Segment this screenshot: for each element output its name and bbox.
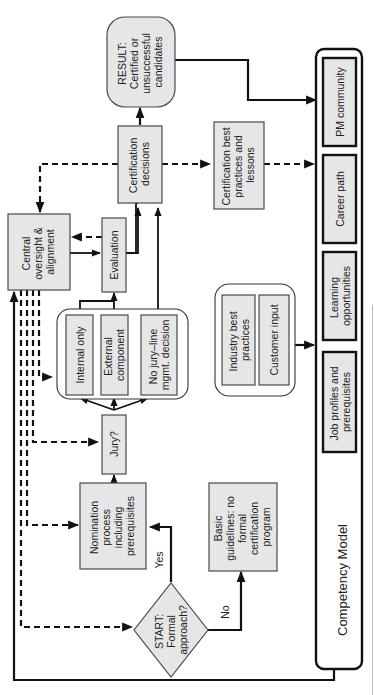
external-component-label: External component bbox=[102, 329, 126, 381]
competency-model-node: PM community Career path Learning opport… bbox=[316, 49, 362, 669]
start-label: START: Formal approach? bbox=[153, 605, 189, 655]
no-edge-label: No bbox=[219, 605, 231, 619]
basic-guidelines-node: Basic guidelines: no formal certificatio… bbox=[209, 483, 277, 571]
yes-edge-label: Yes bbox=[153, 551, 165, 568]
jury-options-group: Internal only External component No jury… bbox=[57, 309, 188, 399]
edge-jury-to-internal bbox=[80, 398, 114, 410]
nomination-label: Nomination process including prerequisit… bbox=[88, 496, 136, 556]
central-oversight-node: Central oversight & alignment bbox=[8, 214, 70, 290]
result-label: RESULT: Certified or unsuccessful candid… bbox=[116, 30, 164, 94]
career-path-label: Career path bbox=[334, 171, 346, 227]
certification-decisions-node: Certification decisions bbox=[118, 126, 162, 203]
certification-process-diagram: RESULT: Certified or unsuccessful candid… bbox=[0, 0, 376, 695]
result-node: RESULT: Certified or unsuccessful candid… bbox=[107, 17, 175, 107]
no-jury-label: No jury–line mgmt. decision bbox=[147, 320, 171, 391]
learning-opportunities-label: Learning opportunities bbox=[328, 266, 352, 326]
external-inputs-group: Industry best practices Customer input bbox=[215, 284, 295, 396]
start-decision-node: START: Formal approach? bbox=[134, 583, 208, 677]
internal-only-label: Internal only bbox=[74, 326, 86, 384]
competency-model-label: Competency Model bbox=[335, 524, 350, 636]
cert-best-practices-node: Certification best practices and lessons bbox=[214, 122, 264, 209]
job-profiles-label: Job profiles and prerequisites bbox=[328, 363, 352, 440]
edge-result-to-pm-community bbox=[174, 60, 316, 100]
page-edge-rule bbox=[372, 305, 373, 695]
evaluation-label: Evaluation bbox=[108, 230, 120, 279]
edge-start-no bbox=[208, 572, 241, 630]
customer-input-label: Customer input bbox=[268, 304, 280, 375]
edge-jury-to-nojury bbox=[114, 398, 148, 410]
nomination-node: Nomination process including prerequisit… bbox=[80, 483, 146, 569]
jury-label: Jury? bbox=[108, 431, 120, 457]
edge-certdec-to-central bbox=[40, 164, 118, 212]
edge-central-to-jurygroup bbox=[39, 290, 52, 377]
evaluation-node: Evaluation bbox=[102, 218, 126, 292]
certification-decisions-label: Certification decisions bbox=[127, 135, 151, 193]
jury-node: Jury? bbox=[102, 415, 126, 474]
pm-community-label: PM community bbox=[334, 67, 346, 137]
